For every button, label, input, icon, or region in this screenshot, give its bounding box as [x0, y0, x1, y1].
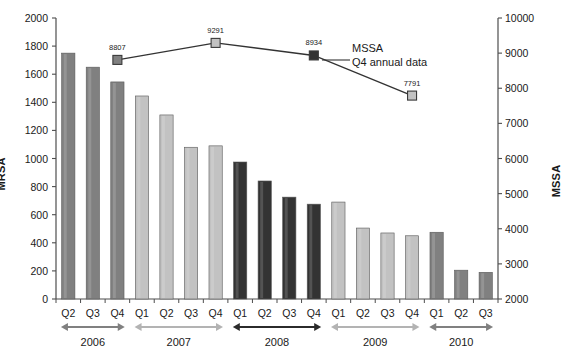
- x-tick-label-13: Q3: [375, 308, 400, 319]
- legend-series-note: Q4 annual data: [352, 56, 427, 70]
- year-label-2010: 2010: [431, 337, 491, 348]
- y-tick-right-2: 4000: [505, 224, 545, 235]
- mssa-marker-Q4-2007: [211, 38, 220, 47]
- y-tick-right-0: 2000: [505, 294, 545, 305]
- chart-figure: MRSA MSSA 020040060080010001200140016001…: [0, 0, 570, 359]
- bar-2007-Q2: [160, 115, 173, 299]
- y-tick-right-3: 5000: [505, 189, 545, 200]
- bar-2007-Q3: [184, 147, 197, 299]
- y-tick-left-5: 1000: [16, 154, 48, 165]
- bar-2010-Q2: [455, 270, 468, 299]
- x-tick-label-2: Q4: [105, 308, 130, 319]
- bar-2006-Q2: [62, 53, 75, 299]
- bar-2007-Q1: [135, 96, 148, 299]
- bar-2009-Q2: [356, 228, 369, 299]
- year-range-arrow-2010: [429, 323, 493, 331]
- x-tick-label-7: Q1: [228, 308, 253, 319]
- x-tick-label-15: Q1: [424, 308, 449, 319]
- x-tick-label-8: Q2: [252, 308, 277, 319]
- x-tick-label-12: Q2: [351, 308, 376, 319]
- y-tick-right-1: 3000: [505, 259, 545, 270]
- plot-area: [0, 0, 570, 359]
- y-tick-left-6: 1200: [16, 125, 48, 136]
- bar-2009-Q1: [332, 202, 345, 299]
- mssa-marker-Q4-2008: [309, 51, 318, 60]
- bar-2010-Q3: [479, 272, 492, 299]
- x-tick-label-1: Q3: [81, 308, 106, 319]
- x-tick-label-3: Q1: [130, 308, 155, 319]
- year-range-arrow-2006: [61, 323, 125, 331]
- x-tick-label-5: Q3: [179, 308, 204, 319]
- year-label-2006: 2006: [63, 337, 123, 348]
- bar-2008-Q1: [234, 162, 247, 299]
- y-tick-left-1: 200: [16, 266, 48, 277]
- x-tick-label-9: Q3: [277, 308, 302, 319]
- x-tick-label-10: Q4: [302, 308, 327, 319]
- x-tick-label-17: Q3: [473, 308, 498, 319]
- y-tick-right-6: 8000: [505, 83, 545, 94]
- y-axis-right-title: MSSA: [550, 165, 562, 198]
- year-label-2007: 2007: [149, 337, 209, 348]
- x-tick-label-14: Q4: [400, 308, 425, 319]
- bar-2009-Q3: [381, 233, 394, 299]
- year-label-2009: 2009: [345, 337, 405, 348]
- y-tick-left-10: 2000: [16, 13, 48, 24]
- x-tick-label-6: Q4: [203, 308, 228, 319]
- y-tick-left-7: 1400: [16, 97, 48, 108]
- y-tick-right-7: 9000: [505, 48, 545, 59]
- x-tick-label-16: Q2: [449, 308, 474, 319]
- y-tick-right-4: 6000: [505, 154, 545, 165]
- year-range-arrow-2008: [233, 323, 321, 331]
- y-tick-right-5: 7000: [505, 118, 545, 129]
- mssa-value-label-2: 8934: [294, 39, 334, 47]
- mssa-marker-Q4-2006: [113, 55, 122, 64]
- bar-2007-Q4: [209, 146, 222, 299]
- bar-2009-Q4: [405, 236, 418, 299]
- mssa-value-label-3: 7791: [392, 80, 432, 88]
- y-tick-left-9: 1800: [16, 41, 48, 52]
- legend-series-name: MSSA: [352, 42, 427, 56]
- y-tick-left-4: 800: [16, 182, 48, 193]
- bar-2010-Q1: [430, 232, 443, 299]
- y-tick-left-8: 1600: [16, 69, 48, 80]
- mssa-value-label-0: 8807: [97, 44, 137, 52]
- x-tick-label-11: Q1: [326, 308, 351, 319]
- x-tick-label-4: Q2: [154, 308, 179, 319]
- bar-2006-Q4: [111, 82, 124, 299]
- year-label-2008: 2008: [247, 337, 307, 348]
- year-range-arrow-2009: [331, 323, 419, 331]
- y-tick-left-3: 600: [16, 210, 48, 221]
- legend: MSSAQ4 annual data: [352, 42, 427, 70]
- mssa-marker-Q4-2009: [408, 91, 417, 100]
- mssa-value-label-1: 9291: [196, 27, 236, 35]
- bar-2006-Q3: [86, 67, 99, 299]
- bar-2008-Q3: [283, 197, 296, 299]
- y-tick-left-0: 0: [16, 294, 48, 305]
- y-tick-right-8: 10000: [505, 13, 545, 24]
- y-tick-left-2: 400: [16, 238, 48, 249]
- bar-2008-Q2: [258, 181, 271, 299]
- y-axis-left-title: MRSA: [0, 157, 7, 190]
- x-tick-label-0: Q2: [56, 308, 81, 319]
- year-range-arrow-2007: [135, 323, 223, 331]
- bar-2008-Q4: [307, 204, 320, 299]
